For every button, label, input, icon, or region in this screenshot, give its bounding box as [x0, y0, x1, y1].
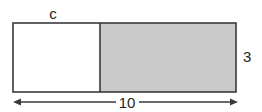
- left-unshaded-region: [13, 23, 100, 92]
- left-part-label: c: [49, 5, 57, 22]
- right-shaded-region: [100, 23, 236, 92]
- figure-canvas: c 3 10: [0, 0, 262, 112]
- height-label: 3: [243, 48, 251, 65]
- area-model-diagram: c 3 10: [0, 0, 262, 112]
- total-width-label: 10: [119, 94, 136, 111]
